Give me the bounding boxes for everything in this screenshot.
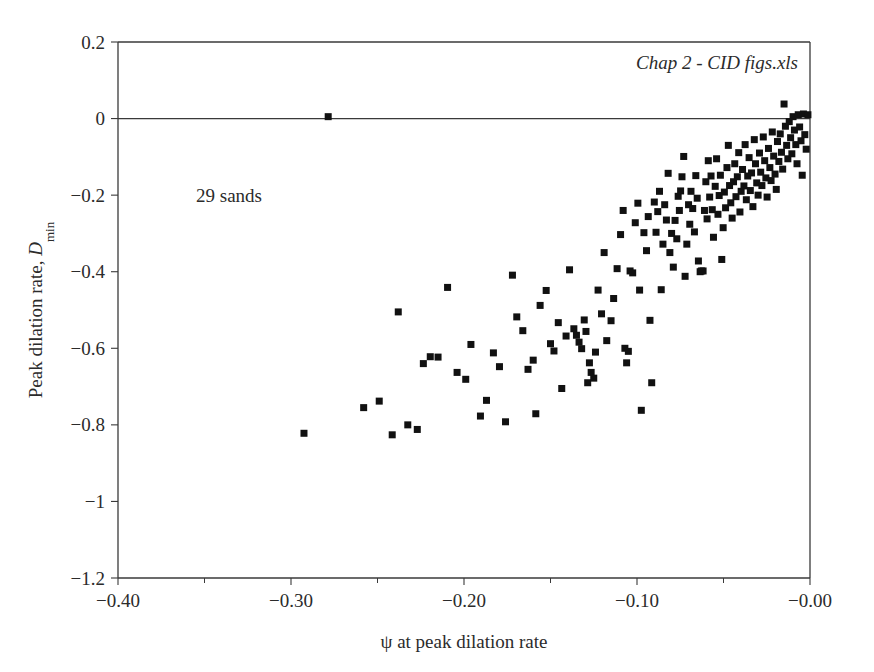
data-point-marker <box>435 354 442 361</box>
data-point-marker <box>705 157 712 164</box>
data-point-marker <box>525 366 532 373</box>
data-point-marker <box>718 256 725 263</box>
data-point-marker <box>758 182 765 189</box>
data-point-marker <box>676 207 683 214</box>
data-point-marker <box>420 360 427 367</box>
data-point-marker <box>686 221 693 228</box>
data-point-marker <box>746 154 753 161</box>
data-point-marker <box>803 146 810 153</box>
data-point-marker <box>783 142 790 149</box>
data-point-marker <box>581 316 588 323</box>
data-point-marker <box>629 269 636 276</box>
data-point-marker <box>729 215 736 222</box>
data-point-marker <box>654 208 661 215</box>
data-point-marker <box>779 166 786 173</box>
data-point-marker <box>590 375 597 382</box>
data-point-marker <box>653 229 660 236</box>
data-point-marker <box>462 376 469 383</box>
scatter-chart-figure: 0.20−0.2−0.4−0.6−0.8−1−1.2−0.40−0.30−0.2… <box>0 0 874 672</box>
data-point-marker <box>634 200 641 207</box>
data-point-marker <box>794 160 801 167</box>
data-point-marker <box>704 215 711 222</box>
data-point-marker <box>760 133 767 140</box>
data-point-marker <box>796 123 803 130</box>
data-point-marker <box>778 149 785 156</box>
data-point-marker <box>632 219 639 226</box>
y-axis-title-subscript: min <box>42 221 57 242</box>
data-point-marker <box>695 257 702 264</box>
data-point-marker <box>798 137 805 144</box>
data-point-marker <box>687 188 694 195</box>
y-axis-title: Peak dilation rate, Dmin <box>25 221 57 398</box>
x-axis-tick-label: −0.10 <box>615 590 659 611</box>
data-point-marker <box>601 249 608 256</box>
data-point-marker <box>530 357 537 364</box>
data-point-marker <box>404 421 411 428</box>
data-point-marker <box>713 155 720 162</box>
data-point-marker <box>712 183 719 190</box>
data-point-marker <box>592 349 599 356</box>
data-point-marker <box>769 128 776 135</box>
data-point-marker <box>723 164 730 171</box>
data-point-marker <box>659 241 666 248</box>
data-point-marker <box>781 101 788 108</box>
data-point-marker <box>691 228 698 235</box>
data-point-marker <box>682 273 689 280</box>
data-point-marker <box>727 199 734 206</box>
data-point-marker <box>689 205 696 212</box>
data-point-marker <box>804 111 811 118</box>
data-point-marker <box>414 426 421 433</box>
data-point-marker <box>550 347 557 354</box>
data-point-marker <box>747 187 754 194</box>
data-point-marker <box>799 172 806 179</box>
data-point-marker <box>740 182 747 189</box>
data-point-marker <box>692 172 699 179</box>
data-point-marker <box>532 410 539 417</box>
sands-count-annotation: 29 sands <box>196 185 262 206</box>
data-point-marker <box>643 247 650 254</box>
data-point-marker <box>570 325 577 332</box>
data-point-marker <box>735 149 742 156</box>
data-point-marker <box>710 234 717 241</box>
plot-canvas: 0.20−0.2−0.4−0.6−0.8−1−1.2−0.40−0.30−0.2… <box>0 0 874 672</box>
data-point-marker <box>555 319 562 326</box>
data-point-marker <box>658 286 665 293</box>
data-point-marker <box>706 194 713 201</box>
data-point-marker <box>558 385 565 392</box>
data-point-marker <box>731 160 738 167</box>
data-points <box>300 101 811 439</box>
x-axis-tick-label: −0.00 <box>788 590 832 611</box>
data-point-marker <box>751 136 758 143</box>
data-point-marker <box>509 272 516 279</box>
x-axis-tick-label: −0.40 <box>96 590 140 611</box>
data-point-marker <box>743 196 750 203</box>
axis-ticks <box>111 42 810 585</box>
data-point-marker <box>708 173 715 180</box>
data-point-marker <box>638 407 645 414</box>
data-point-marker <box>614 265 621 272</box>
y-axis-tick-label: −1 <box>85 491 105 512</box>
data-point-marker <box>720 224 727 231</box>
data-point-marker <box>490 349 497 356</box>
data-point-marker <box>764 194 771 201</box>
data-point-marker <box>672 217 679 224</box>
x-axis-tick-label: −0.30 <box>269 590 313 611</box>
x-axis-title: ψ at peak dilation rate <box>381 631 548 652</box>
data-point-marker <box>777 130 784 137</box>
data-point-marker <box>756 150 763 157</box>
data-point-marker <box>801 131 808 138</box>
data-point-marker <box>651 199 658 206</box>
axis-frame <box>118 42 810 578</box>
data-point-marker <box>752 160 759 167</box>
data-point-marker <box>721 189 728 196</box>
data-point-marker <box>749 203 756 210</box>
y-axis-title-text: Peak dilation rate, <box>25 256 46 398</box>
data-point-marker <box>677 187 684 194</box>
data-point-marker <box>768 177 775 184</box>
y-axis-tick-label: −0.4 <box>71 261 106 282</box>
data-point-marker <box>736 208 743 215</box>
data-point-marker <box>617 231 624 238</box>
data-point-marker <box>519 327 526 334</box>
data-point-marker <box>578 345 585 352</box>
y-axis-tick-label: −1.2 <box>71 568 105 589</box>
